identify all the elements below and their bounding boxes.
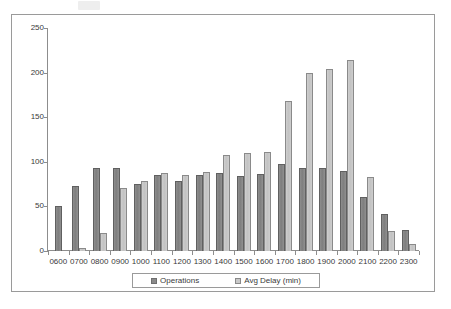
bar-avg-delay: [409, 244, 416, 251]
bar-operations: [402, 230, 409, 251]
bar-avg-delay: [367, 177, 374, 251]
x-axis-tick-mark: [234, 251, 235, 255]
x-axis-tick-mark: [295, 251, 296, 255]
x-axis-tick-label: 0700: [69, 257, 90, 271]
bar-operations: [55, 206, 62, 251]
bar-group: [69, 28, 90, 251]
y-axis-tick-label: 150: [31, 113, 44, 121]
bar-operations: [72, 186, 79, 251]
x-axis-tick-label: 1100: [151, 257, 172, 271]
bar-avg-delay: [285, 101, 292, 251]
bar-operations: [113, 168, 120, 251]
bar-operations: [154, 175, 161, 251]
x-axis-tick-mark: [357, 251, 358, 255]
bar-group: [151, 28, 172, 251]
y-axis-tick-label: 100: [31, 158, 44, 166]
bar-group: [213, 28, 234, 251]
x-axis-tick-mark: [69, 251, 70, 255]
x-axis-tick-label: 1200: [172, 257, 193, 271]
bar-operations: [299, 168, 306, 251]
x-axis-tick-mark: [337, 251, 338, 255]
bar-group: [192, 28, 213, 251]
x-axis-tick-mark: [48, 251, 49, 255]
x-axis-tick-label: 1600: [254, 257, 275, 271]
x-axis-tick-label: 1800: [295, 257, 316, 271]
x-axis-tick-mark: [151, 251, 152, 255]
x-axis-tick-mark: [172, 251, 173, 255]
bar-operations: [93, 168, 100, 251]
bar-group: [316, 28, 337, 251]
bar-avg-delay: [161, 173, 168, 251]
x-axis-tick-label: 1400: [213, 257, 234, 271]
bar-avg-delay: [141, 181, 148, 251]
bar-operations: [134, 184, 141, 251]
plot-area: 050100150200250 060007000800090010001100…: [12, 15, 434, 291]
bar-operations: [340, 171, 347, 251]
bar-avg-delay: [100, 233, 107, 251]
bar-avg-delay: [203, 172, 210, 251]
x-axis-tick-label: 2000: [337, 257, 358, 271]
x-axis-tick-mark: [316, 251, 317, 255]
x-axis-tick-label: 0900: [110, 257, 131, 271]
y-axis-tick-label: 200: [31, 69, 44, 77]
bar-operations: [257, 174, 264, 251]
legend-label: Avg Delay (min): [244, 276, 301, 285]
x-axis-tick-mark: [378, 251, 379, 255]
x-axis-tick-mark: [110, 251, 111, 255]
x-axis-tick-mark: [130, 251, 131, 255]
bar-operations: [278, 164, 285, 251]
bar-avg-delay: [306, 73, 313, 251]
bar-groups: [48, 28, 419, 251]
bar-avg-delay: [347, 60, 354, 251]
bar-operations: [360, 197, 367, 251]
bar-operations: [381, 214, 388, 251]
x-axis-tick-label: 1000: [130, 257, 151, 271]
x-axis-tick-mark: [89, 251, 90, 255]
bar-avg-delay: [244, 153, 251, 251]
x-axis-tick-mark: [398, 251, 399, 255]
bar-group: [275, 28, 296, 251]
bar-group: [130, 28, 151, 251]
bar-operations: [196, 175, 203, 251]
bar-group: [89, 28, 110, 251]
x-axis-tick-mark: [275, 251, 276, 255]
legend-label: Operations: [160, 276, 199, 285]
bar-group: [378, 28, 399, 251]
legend-entry[interactable]: Avg Delay (min): [235, 276, 301, 285]
bar-group: [295, 28, 316, 251]
bar-avg-delay: [326, 69, 333, 251]
x-axis-tick-labels: 0600070008000900100011001200130014001500…: [48, 257, 419, 271]
bar-avg-delay: [120, 188, 127, 251]
bar-group: [254, 28, 275, 251]
x-axis-ticks: [48, 251, 419, 255]
bar-group: [398, 28, 419, 251]
legend-entry[interactable]: Operations: [151, 276, 199, 285]
bar-avg-delay: [388, 231, 395, 251]
bar-avg-delay: [182, 175, 189, 251]
bar-operations: [175, 181, 182, 251]
x-axis-tick-mark: [192, 251, 193, 255]
x-axis-tick-label: 2300: [398, 257, 419, 271]
scan-artifact: [78, 1, 100, 10]
bar-group: [337, 28, 358, 251]
bar-group: [110, 28, 131, 251]
x-axis-tick-label: 1500: [233, 257, 254, 271]
x-axis-tick-label: 0800: [89, 257, 110, 271]
x-axis-tick-label: 0600: [48, 257, 69, 271]
x-axis-tick-mark: [213, 251, 214, 255]
bar-group: [48, 28, 69, 251]
bar-operations: [237, 176, 244, 251]
bar-avg-delay: [223, 155, 230, 251]
bar-group: [233, 28, 254, 251]
x-axis-tick-label: 1300: [192, 257, 213, 271]
x-axis-tick-label: 2100: [357, 257, 378, 271]
x-axis-tick-label: 1700: [275, 257, 296, 271]
legend-swatch-icon: [151, 278, 157, 284]
x-axis-tick-mark: [419, 251, 420, 255]
x-axis-tick-label: 2200: [378, 257, 399, 271]
x-axis-tick-mark: [254, 251, 255, 255]
bar-operations: [319, 168, 326, 251]
bar-group: [172, 28, 193, 251]
y-axis-tick-labels: 050100150200250: [18, 23, 44, 259]
chart-legend: OperationsAvg Delay (min): [132, 273, 320, 288]
